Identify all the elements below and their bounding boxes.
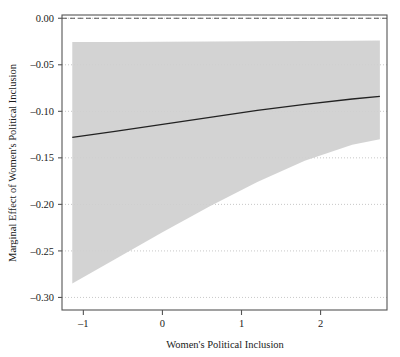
y-tick-label: 0.00 bbox=[36, 13, 54, 24]
y-tick-label: –0.05 bbox=[29, 59, 54, 70]
plot-canvas: 0.00–0.05–0.10–0.15–0.20–0.25–0.30 –1012… bbox=[0, 0, 400, 357]
y-tick-label: –0.20 bbox=[29, 199, 54, 210]
x-tick-label: 2 bbox=[318, 318, 323, 329]
y-tick-label: –0.10 bbox=[29, 106, 54, 117]
y-tick-label: –0.30 bbox=[29, 292, 54, 303]
x-tick-label: 1 bbox=[239, 318, 244, 329]
x-tick-label: 0 bbox=[160, 318, 165, 329]
x-axis: –1012 bbox=[77, 310, 323, 329]
x-tick-label: –1 bbox=[77, 318, 89, 329]
y-axis-title: Marginal Effect of Women's Political Inc… bbox=[7, 63, 18, 262]
x-axis-title: Women's Political Inclusion bbox=[166, 339, 284, 350]
y-tick-label: –0.25 bbox=[29, 246, 54, 257]
y-tick-label: –0.15 bbox=[29, 152, 54, 163]
marginal-effect-chart: 0.00–0.05–0.10–0.15–0.20–0.25–0.30 –1012… bbox=[0, 0, 400, 357]
y-axis: 0.00–0.05–0.10–0.15–0.20–0.25–0.30 bbox=[29, 13, 62, 303]
